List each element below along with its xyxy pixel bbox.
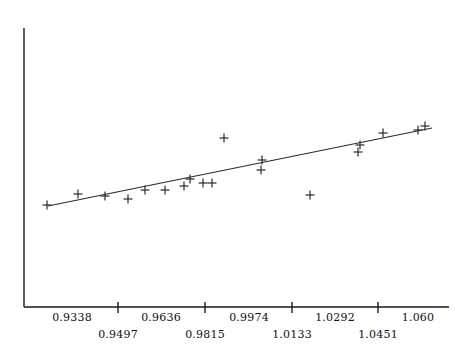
data-point-marker: [161, 186, 170, 195]
data-point-marker: [199, 179, 208, 188]
x-tick-label-6: 1.0292: [315, 311, 355, 324]
data-point-marker: [220, 134, 229, 143]
data-points: [43, 122, 430, 210]
data-point-marker: [257, 166, 266, 175]
data-point-marker: [306, 191, 315, 200]
data-point-marker: [180, 182, 189, 191]
data-point-marker: [379, 129, 388, 138]
data-point-marker: [74, 190, 83, 199]
x-tick-label-1: 0.9497: [98, 328, 138, 341]
data-point-marker: [186, 175, 195, 184]
data-point-marker: [101, 192, 110, 201]
data-point-marker: [43, 201, 52, 210]
x-tick-label-5: 1.0133: [272, 328, 312, 341]
x-tick-label-2: 0.9636: [141, 311, 181, 324]
x-tick-label-4: 0.9974: [229, 311, 269, 324]
data-point-marker: [124, 195, 133, 204]
data-point-marker: [208, 179, 217, 188]
scatter-plot-figure: 0.93380.94970.96360.98150.99741.01331.02…: [0, 0, 455, 350]
data-point-marker: [414, 126, 423, 135]
x-tick-label-7: 1.0451: [358, 328, 398, 341]
data-point-marker: [354, 148, 363, 157]
plot-canvas: [0, 0, 455, 350]
x-tick-label-8: 1.060: [402, 311, 435, 324]
x-tick-label-0: 0.9338: [52, 311, 92, 324]
x-tick-label-3: 0.9815: [185, 328, 225, 341]
